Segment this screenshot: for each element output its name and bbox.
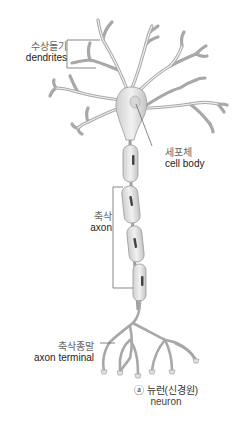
figure-caption: ⓐ 뉴런(신경원) neuron	[120, 385, 212, 407]
caption-ko: ⓐ 뉴런(신경원)	[120, 385, 212, 396]
caption-en: neuron	[120, 396, 212, 407]
dendrites-en: dendrites	[14, 52, 67, 63]
cell-body	[116, 87, 147, 140]
cell-body-en: cell body	[165, 158, 204, 169]
label-cell-body: 세포체 cell body	[165, 147, 204, 169]
label-axon-terminal: 축삭종말 axon terminal	[22, 341, 94, 363]
cell-body-ko: 세포체	[165, 147, 204, 158]
axon-en: axon	[78, 222, 112, 233]
nucleus	[130, 96, 140, 108]
neuron-illustration	[0, 0, 241, 434]
dendrites-ko: 수상돌기	[14, 41, 67, 52]
axon	[121, 140, 146, 310]
terminal-buttons	[101, 359, 199, 378]
axon-ko: 축삭	[78, 211, 112, 222]
label-dendrites: 수상돌기 dendrites	[14, 41, 67, 63]
axon-terminal-en: axon terminal	[22, 352, 94, 363]
label-axon: 축삭 axon	[78, 211, 112, 233]
axon-terminals	[103, 301, 196, 374]
neuron-diagram: 수상돌기 dendrites 세포체 cell body 축삭 axon 축삭종…	[0, 0, 241, 434]
axon-terminal-ko: 축삭종말	[22, 341, 94, 352]
